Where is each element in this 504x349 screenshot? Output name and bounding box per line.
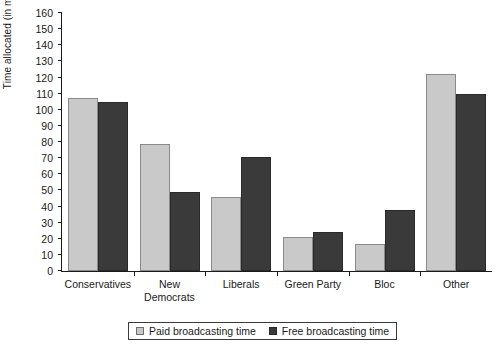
y-tick-110: 110 xyxy=(0,88,62,100)
bar-paid-new-democrats xyxy=(140,144,170,271)
legend-label-free: Free broadcasting time xyxy=(282,325,389,337)
x-tick-mark xyxy=(134,272,135,276)
legend-item-free: Free broadcasting time xyxy=(269,325,389,337)
y-tick-label: 150 xyxy=(35,23,53,35)
plot-area xyxy=(62,13,492,271)
legend-item-paid: Paid broadcasting time xyxy=(136,325,256,337)
bar-paid-conservatives xyxy=(68,98,98,271)
x-tick-mark xyxy=(349,272,350,276)
bar-chart: Time allocated (in minutes) 010203040506… xyxy=(0,0,504,349)
y-tick-label: 140 xyxy=(35,39,53,51)
y-tick-label: 110 xyxy=(36,88,53,100)
y-tick-label: 130 xyxy=(35,55,53,67)
x-tick-mark xyxy=(420,272,421,276)
x-label-line: Bloc xyxy=(349,278,421,291)
y-tick-label: 10 xyxy=(41,249,53,261)
bar-paid-bloc xyxy=(355,244,385,271)
y-tick-label: 90 xyxy=(41,120,53,132)
x-label-line: Democrats xyxy=(134,291,206,304)
y-tick-label: 80 xyxy=(41,136,53,148)
legend-label-paid: Paid broadcasting time xyxy=(149,325,256,337)
y-tick-50: 50 xyxy=(0,184,62,196)
y-tick-label: 50 xyxy=(41,184,53,196)
y-tick-140: 140 xyxy=(0,39,62,51)
bar-free-other xyxy=(456,94,486,271)
y-tick-label: 160 xyxy=(35,7,53,19)
x-label-line: Green Party xyxy=(277,278,349,291)
x-label-liberals: Liberals xyxy=(205,278,277,291)
x-label-other: Other xyxy=(420,278,492,291)
x-label-line: New xyxy=(134,278,206,291)
x-label-line: Other xyxy=(420,278,492,291)
y-tick-0: 0 xyxy=(0,265,62,277)
bar-free-liberals xyxy=(241,157,271,271)
y-tick-80: 80 xyxy=(0,136,62,148)
x-label-new-democrats: NewDemocrats xyxy=(134,278,206,304)
y-tick-130: 130 xyxy=(0,55,62,67)
y-tick-label: 100 xyxy=(35,104,53,116)
y-tick-150: 150 xyxy=(0,23,62,35)
y-tick-100: 100 xyxy=(0,104,62,116)
x-label-line: Liberals xyxy=(205,278,277,291)
y-tick-90: 90 xyxy=(0,120,62,132)
y-tick-40: 40 xyxy=(0,201,62,213)
y-tick-160: 160 xyxy=(0,7,62,19)
x-label-bloc: Bloc xyxy=(349,278,421,291)
y-tick-label: 30 xyxy=(41,217,53,229)
x-label-conservatives: Conservatives xyxy=(62,278,134,291)
x-tick-mark xyxy=(277,272,278,276)
y-tick-label: 20 xyxy=(41,233,53,245)
y-tick-label: 60 xyxy=(41,168,53,180)
bar-paid-liberals xyxy=(211,197,241,271)
bar-free-new-democrats xyxy=(170,192,200,271)
y-tick-10: 10 xyxy=(0,249,62,261)
y-tick-60: 60 xyxy=(0,168,62,180)
y-tick-label: 40 xyxy=(41,201,53,213)
bar-free-bloc xyxy=(385,210,415,271)
y-tick-20: 20 xyxy=(0,233,62,245)
bar-free-green-party xyxy=(313,232,343,271)
chart-legend: Paid broadcasting time Free broadcasting… xyxy=(128,322,397,340)
y-tick-120: 120 xyxy=(0,72,62,84)
paid-swatch-icon xyxy=(136,327,144,335)
y-tick-30: 30 xyxy=(0,217,62,229)
bar-free-conservatives xyxy=(98,102,128,271)
y-tick-label: 120 xyxy=(35,72,53,84)
y-tick-label: 0 xyxy=(47,265,53,277)
x-label-green-party: Green Party xyxy=(277,278,349,291)
x-label-line: Conservatives xyxy=(62,278,134,291)
free-swatch-icon xyxy=(269,327,277,335)
bar-paid-other xyxy=(426,74,456,271)
y-tick-70: 70 xyxy=(0,152,62,164)
y-tick-label: 70 xyxy=(41,152,53,164)
bar-paid-green-party xyxy=(283,237,313,271)
x-tick-mark xyxy=(205,272,206,276)
